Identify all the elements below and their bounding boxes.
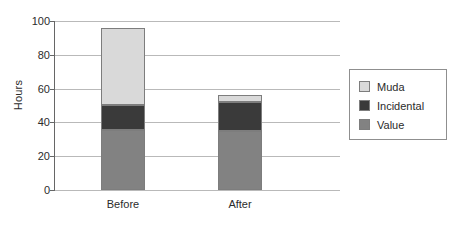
legend-item: Muda — [359, 77, 446, 96]
legend-label: Incidental — [377, 100, 424, 112]
y-axis-tick-labels: 020406080100 — [16, 21, 50, 190]
bar-segment-value — [218, 131, 262, 190]
y-axis-tick-label: 60 — [20, 83, 50, 95]
y-axis-tick-label: 20 — [20, 150, 50, 162]
gridline — [55, 55, 340, 56]
legend-swatch-incidental — [359, 100, 370, 111]
chart-legend: MudaIncidentalValue — [349, 69, 447, 140]
legend-item: Value — [359, 115, 446, 134]
y-axis-tick-mark — [50, 89, 55, 90]
x-axis-tick-label: Before — [63, 198, 183, 210]
gridline — [55, 21, 340, 22]
y-axis-tick-mark — [50, 156, 55, 157]
bar-segment-incidental — [218, 102, 262, 131]
y-axis-tick-label: 40 — [20, 116, 50, 128]
y-axis-line — [54, 21, 55, 190]
gridline — [55, 156, 340, 157]
bar-stack-after — [218, 21, 262, 190]
legend-swatch-value — [359, 119, 370, 130]
y-axis-tick-label: 80 — [20, 49, 50, 61]
stacked-bar-chart: Hours 020406080100 MudaIncidentalValue B… — [0, 0, 457, 228]
x-axis-tick-label: After — [180, 198, 300, 210]
y-axis-tick-mark — [50, 21, 55, 22]
bar-segment-incidental — [101, 105, 145, 130]
legend-swatch-muda — [359, 81, 370, 92]
y-axis-tick-label: 0 — [20, 184, 50, 196]
legend-label: Muda — [377, 81, 405, 93]
y-axis-tick-mark — [50, 190, 55, 191]
gridline — [55, 190, 340, 191]
bar-segment-value — [101, 130, 145, 190]
plot-area — [55, 21, 340, 190]
y-axis-tick-label: 100 — [20, 15, 50, 27]
y-axis-tick-mark — [50, 55, 55, 56]
bar-segment-muda — [101, 28, 145, 105]
bar-segment-muda — [218, 95, 262, 102]
gridline — [55, 89, 340, 90]
legend-item: Incidental — [359, 96, 446, 115]
legend-label: Value — [377, 119, 404, 131]
y-axis-tick-mark — [50, 122, 55, 123]
bar-stack-before — [101, 21, 145, 190]
gridline — [55, 122, 340, 123]
